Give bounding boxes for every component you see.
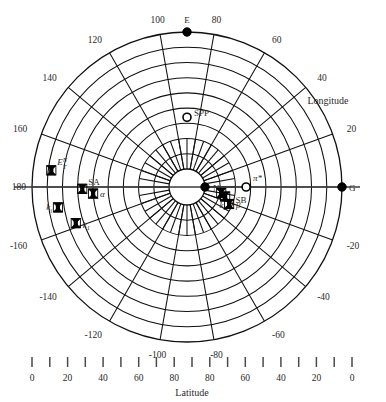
data-point-spp: SPP: [183, 108, 209, 121]
x-square-marker: [53, 203, 62, 212]
filled-circle-marker: [338, 183, 346, 191]
latitude-tick-label: 0: [30, 373, 35, 383]
longitude-tick-label: 80: [212, 15, 222, 25]
data-point-e: E: [183, 15, 191, 36]
data-point-label-alpha: α: [100, 189, 105, 199]
data-point-unl1: [78, 184, 87, 193]
latitude-tick-label: 60: [241, 373, 251, 383]
latitude-tick-label: 80: [205, 373, 215, 383]
latitude-bottom-axis: 020406080806040200Latitude: [30, 357, 355, 398]
longitude-tick-label: 40: [317, 73, 327, 83]
data-point-label-etn: ENT: [56, 156, 68, 169]
longitude-tick-label: -100: [149, 350, 167, 360]
data-point-label-sa: SA: [88, 177, 100, 187]
data-point-sa: SA: [88, 177, 100, 187]
data-point-label-ki: ki: [46, 202, 52, 214]
data-point-label-g: G: [349, 183, 356, 193]
longitude-tick-label: 100: [150, 15, 165, 25]
x-square-marker: [78, 184, 87, 193]
data-point-label-spp: SPP: [194, 108, 209, 118]
longitude-tick-label: 140: [43, 73, 58, 83]
label-subscript: T: [63, 163, 67, 170]
longitude-tick-label: -20: [347, 241, 360, 251]
longitude-tick-label: -140: [39, 292, 57, 302]
data-point-alpha: α: [89, 189, 106, 199]
data-point-k1: k1: [71, 219, 90, 232]
longitude-tick-label: 60: [272, 35, 282, 45]
longitude-tick-label: -40: [317, 292, 330, 302]
latitude-tick-label: 0: [350, 373, 355, 383]
data-point-label-pi*: π*: [253, 173, 263, 183]
data-point-label-k1: k1: [83, 220, 90, 232]
latitude-tick-label: 20: [312, 373, 322, 383]
latitude-tick-label: 40: [98, 373, 108, 383]
longitude-tick-label: -120: [85, 330, 103, 340]
latitude-tick-label: 60: [134, 373, 144, 383]
label-subscript: i: [50, 207, 52, 214]
latitude-tick-label: 40: [276, 373, 286, 383]
longitude-tick-label: 180: [12, 182, 27, 192]
latitude-axis-title: Latitude: [175, 387, 209, 398]
data-point-label-e: E: [184, 15, 190, 25]
filled-circle-marker: [201, 183, 209, 191]
longitude-tick-label: 160: [13, 124, 28, 134]
polar-chart-svg: 10080120601404016020180-160-20-140-40-12…: [0, 0, 386, 402]
data-point-pi*: π*: [242, 173, 263, 191]
longitude-tick-label: -80: [210, 350, 223, 360]
x-square-marker: [89, 189, 98, 198]
x-square-marker: [71, 219, 80, 228]
data-point-ki: ki: [46, 202, 62, 214]
polar-chart-figure: 10080120601404016020180-160-20-140-40-12…: [0, 0, 386, 402]
open-circle-marker: [183, 113, 191, 121]
data-point-label-beta: β: [235, 200, 241, 210]
longitude-axis-title: Longitude: [307, 95, 349, 106]
longitude-tick-label: 120: [88, 35, 103, 45]
label-subscript: 1: [87, 224, 90, 231]
longitude-tick-label: 20: [347, 124, 357, 134]
latitude-tick-label: 20: [63, 373, 73, 383]
longitude-tick-label: -160: [10, 241, 28, 251]
filled-circle-marker: [183, 28, 191, 36]
latitude-tick-label: 80: [169, 373, 179, 383]
longitude-tick-label: -60: [272, 330, 285, 340]
data-point-beta: β: [224, 199, 241, 209]
open-circle-marker: [242, 183, 250, 191]
